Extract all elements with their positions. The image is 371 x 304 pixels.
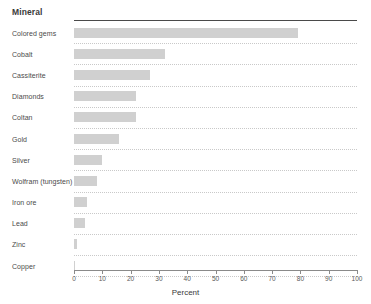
bar-track xyxy=(74,213,357,234)
header-rule xyxy=(74,20,357,21)
row-gridline xyxy=(74,149,357,150)
bar-category-label: Silver xyxy=(12,156,30,163)
x-axis-tick xyxy=(357,270,358,274)
x-axis-tick xyxy=(244,270,245,274)
row-gridline xyxy=(74,255,357,256)
bar-row: Lead xyxy=(0,213,371,234)
x-axis-tick-label: 40 xyxy=(184,275,191,282)
bar xyxy=(74,218,85,228)
row-gridline xyxy=(74,43,357,44)
bar xyxy=(74,197,87,207)
row-gridline xyxy=(74,64,357,65)
plot-area: Colored gemsCobaltCassiteriteDiamondsCol… xyxy=(0,22,371,270)
bar xyxy=(74,91,136,101)
bar-category-label: Zinc xyxy=(12,241,25,248)
bar xyxy=(74,112,136,122)
x-axis-tick-label: 90 xyxy=(325,275,332,282)
row-gridline xyxy=(74,192,357,193)
bar-track xyxy=(74,170,357,191)
x-axis-tick xyxy=(329,270,330,274)
category-column-header: Mineral xyxy=(12,7,42,17)
bar xyxy=(74,70,150,80)
x-axis-tick-label: 60 xyxy=(240,275,247,282)
bar-track xyxy=(74,192,357,213)
x-axis-tick-label: 70 xyxy=(268,275,275,282)
x-axis-tick xyxy=(131,270,132,274)
bar-row: Copper xyxy=(0,255,371,276)
x-axis-title: Percent xyxy=(0,288,371,297)
row-gridline xyxy=(74,107,357,108)
bar-category-label: Wolfram (tungsten) xyxy=(12,177,72,184)
x-axis-tick-label: 100 xyxy=(352,275,363,282)
bar-track xyxy=(74,128,357,149)
bar-row: Cassiterite xyxy=(0,64,371,85)
bar-category-label: Diamonds xyxy=(12,93,44,100)
bar-row: Iron ore xyxy=(0,192,371,213)
bar xyxy=(74,239,77,249)
x-axis-tick xyxy=(187,270,188,274)
x-axis-tick-label: 10 xyxy=(99,275,106,282)
x-axis-tick xyxy=(300,270,301,274)
horizontal-bar-chart: Mineral Colored gemsCobaltCassiteriteDia… xyxy=(0,0,371,304)
bar-track xyxy=(74,43,357,64)
bar-track xyxy=(74,234,357,255)
bar-track xyxy=(74,64,357,85)
row-gridline xyxy=(74,213,357,214)
x-axis-tick-label: 0 xyxy=(72,275,76,282)
bar-category-label: Gold xyxy=(12,135,27,142)
bar xyxy=(74,176,97,186)
bar xyxy=(74,155,102,165)
bar-category-label: Lead xyxy=(12,220,28,227)
bar-category-label: Cassiterite xyxy=(12,71,46,78)
bar-row: Colored gems xyxy=(0,22,371,43)
bar-row: Cobalt xyxy=(0,43,371,64)
bar xyxy=(74,28,298,38)
bar-row: Coltan xyxy=(0,107,371,128)
bar-track xyxy=(74,86,357,107)
bar-row: Gold xyxy=(0,128,371,149)
x-axis-tick-label: 50 xyxy=(212,275,219,282)
bar-category-label: Colored gems xyxy=(12,29,56,36)
bar-track xyxy=(74,22,357,43)
bar-track xyxy=(74,149,357,170)
x-axis-tick-label: 20 xyxy=(127,275,134,282)
bar-category-label: Copper xyxy=(12,262,35,269)
x-axis-tick xyxy=(74,270,75,274)
x-axis-tick-label: 30 xyxy=(155,275,162,282)
x-axis-tick xyxy=(102,270,103,274)
bar-category-label: Iron ore xyxy=(12,199,37,206)
bar-row: Diamonds xyxy=(0,86,371,107)
bar-category-label: Cobalt xyxy=(12,50,33,57)
bar-row: Zinc xyxy=(0,234,371,255)
bar xyxy=(74,134,119,144)
bar-row: Silver xyxy=(0,149,371,170)
x-axis-tick-label: 80 xyxy=(297,275,304,282)
bar-track xyxy=(74,107,357,128)
row-gridline xyxy=(74,86,357,87)
row-gridline xyxy=(74,128,357,129)
bar-category-label: Coltan xyxy=(12,114,33,121)
row-gridline xyxy=(74,170,357,171)
row-gridline xyxy=(74,234,357,235)
x-axis-tick xyxy=(272,270,273,274)
x-axis-tick xyxy=(216,270,217,274)
x-axis-tick xyxy=(159,270,160,274)
bar xyxy=(74,49,165,59)
bar-row: Wolfram (tungsten) xyxy=(0,170,371,191)
